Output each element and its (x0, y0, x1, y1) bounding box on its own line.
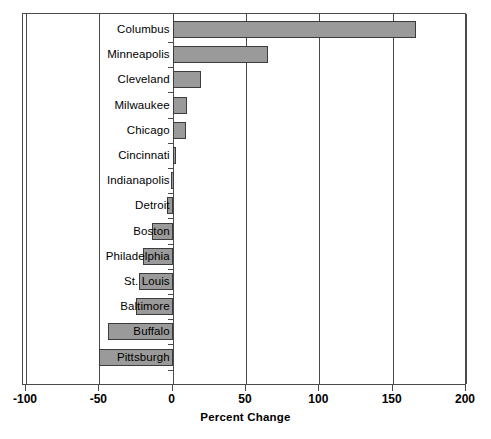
bar (173, 147, 176, 164)
category-label: Chicago (0, 118, 170, 142)
x-axis-tick-label: 100 (288, 392, 348, 406)
x-axis-tick-label: 200 (435, 392, 491, 406)
x-axis-tick-label: 50 (215, 392, 275, 406)
category-label: Buffalo (0, 319, 170, 343)
x-axis-tick (245, 385, 246, 391)
percent-change-bar-chart: ColumbusMinneapolisClevelandMilwaukeeChi… (0, 0, 491, 439)
x-axis-tick-label: 0 (142, 392, 202, 406)
category-label: Minneapolis (0, 42, 170, 66)
x-axis-tick-label: 150 (362, 392, 422, 406)
x-axis-tick (392, 385, 393, 391)
x-axis-tick (465, 385, 466, 391)
category-tick (168, 370, 173, 371)
category-label: Boston (0, 219, 170, 243)
bar (173, 97, 188, 114)
bar (173, 21, 416, 38)
x-axis-tick (98, 385, 99, 391)
category-label: Detroit (0, 193, 170, 217)
bar (173, 122, 186, 139)
bar (171, 172, 174, 189)
x-axis-title: Percent Change (0, 411, 491, 423)
category-label: Columbus (0, 17, 170, 41)
x-axis-tick (25, 385, 26, 391)
category-label: Philadelphia (0, 244, 170, 268)
bar (173, 46, 268, 63)
category-label: Milwaukee (0, 93, 170, 117)
category-label: Pittsburgh (0, 345, 170, 369)
category-label: Cleveland (0, 67, 170, 91)
category-label: St. Louis (0, 269, 170, 293)
category-label: Baltimore (0, 294, 170, 318)
category-label: Indianapolis (0, 168, 170, 192)
x-axis-tick-label: -50 (68, 392, 128, 406)
gridline (466, 14, 467, 384)
category-label: Cincinnati (0, 143, 170, 167)
bar (173, 71, 201, 88)
x-axis-tick (318, 385, 319, 391)
x-axis-tick (172, 385, 173, 391)
x-axis-tick-label: -100 (0, 392, 55, 406)
